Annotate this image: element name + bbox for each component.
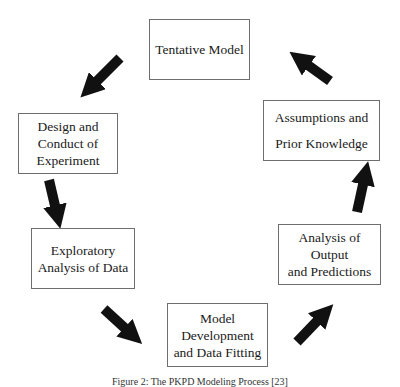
node-label: Assumptions and [275,105,368,131]
node-analysis-output-predictions: Analysis of Output and Predictions [278,224,381,285]
node-label: Model [200,310,235,327]
arrow-analysis-to-assumptions [357,180,364,212]
node-model-development: Model Development and Data Fitting [167,303,268,367]
node-assumptions-prior-knowledge: Assumptions and Prior Knowledge [263,100,380,161]
arrow-model-to-analysis [297,318,320,342]
node-label: Design and [37,118,98,135]
node-label: Tentative Model [155,41,244,58]
arrow-assumptions-to-tentative [305,63,330,81]
node-label: Prior Knowledge [275,131,368,157]
figure-caption: Figure 2: The PKPD Modeling Process [23] [0,376,400,387]
node-label: Development [181,327,254,344]
node-design-conduct-experiment: Design and Conduct of Experiment [18,113,118,174]
arrow-tentative-to-design [94,58,120,84]
arrow-design-to-exploratory [49,180,56,210]
node-label: and Predictions [288,263,372,280]
node-label: Analysis of [299,229,361,246]
arrow-exploratory-to-model [104,309,128,331]
node-label: Conduct of [38,135,98,152]
node-tentative-model: Tentative Model [149,19,250,80]
node-label: Output [311,246,349,263]
node-label: Analysis of Data [38,259,129,276]
node-label: and Data Fitting [174,344,262,361]
node-label: Exploratory [51,242,115,259]
node-label: Experiment [37,152,100,169]
node-exploratory-analysis: Exploratory Analysis of Data [31,228,135,289]
